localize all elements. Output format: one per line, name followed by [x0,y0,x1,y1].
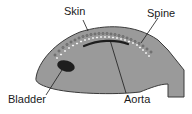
embryo-diagram: Skin Spine Bladder Aorta [0,0,192,114]
skin-leader-line [83,20,88,31]
aorta-label: Aorta [124,94,150,105]
spine-label: Spine [147,8,175,19]
bladder-label: Bladder [8,94,46,105]
skin-label: Skin [64,6,85,17]
